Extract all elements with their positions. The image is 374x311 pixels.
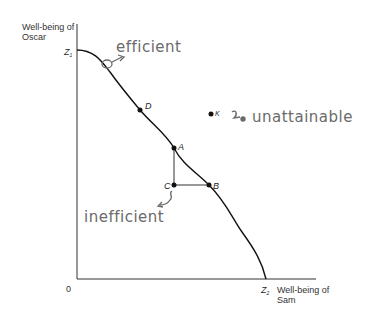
z1-label: Z1 [63, 47, 73, 58]
annotation-efficient: efficient [116, 38, 182, 56]
y-axis-label-line1: Well-being of [22, 22, 75, 32]
label-d: D [145, 101, 152, 111]
point-a [172, 146, 177, 151]
label-a: A [177, 142, 184, 152]
y-axis-label-line2: Oscar [22, 32, 46, 42]
inefficient-arrow-icon [158, 191, 172, 207]
label-k: K [215, 110, 220, 117]
point-d [138, 108, 143, 113]
point-k [209, 112, 214, 117]
point-c [172, 183, 177, 188]
annotation-inefficient: inefficient [84, 208, 164, 226]
point-b [207, 183, 212, 188]
x-axis-label-line1: Well-being of [277, 285, 330, 295]
unattainable-arrow-icon [232, 111, 245, 121]
diagram-canvas: D A C B K Well-being of Oscar Well-being… [0, 0, 374, 311]
x-axis-label-line2: Sam [277, 295, 296, 305]
z2-label: Z2 [260, 285, 270, 296]
label-b: B [213, 181, 219, 191]
origin-label: 0 [66, 284, 71, 294]
label-c: C [164, 181, 171, 191]
frontier-curve [77, 50, 266, 279]
annotation-unattainable: unattainable [252, 108, 353, 126]
